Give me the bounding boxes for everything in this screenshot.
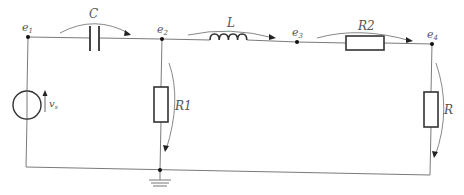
inductor-icon <box>210 34 247 40</box>
wire-e3-r2 <box>297 42 346 43</box>
node-e2-dot <box>160 37 164 41</box>
capacitor-icon <box>90 26 99 51</box>
wire-r1-ground <box>160 122 161 170</box>
r1-arrowhead <box>163 145 169 152</box>
ground-icon <box>149 180 171 186</box>
wires <box>26 37 432 180</box>
resistor-r1-icon <box>154 87 168 122</box>
r2-label: R2 <box>357 19 375 33</box>
capacitor-voltage-arrow <box>60 24 130 34</box>
resistor-r2-icon <box>346 36 384 50</box>
r-label: R <box>443 103 453 117</box>
wire-e1-c <box>28 37 90 38</box>
wire-e2-r1 <box>161 39 162 87</box>
wire-c-e2 <box>99 38 162 39</box>
capacitor-label: C <box>89 7 98 21</box>
wire-e1-source <box>27 37 28 91</box>
wire-e4-r <box>431 44 432 92</box>
source-arrowhead <box>43 90 48 96</box>
capacitor-arrowhead <box>124 30 131 36</box>
wire-l-e3 <box>247 40 297 42</box>
inductor-label: L <box>226 16 235 30</box>
inductor-arrowhead <box>269 34 276 40</box>
node-e4-dot <box>430 42 434 46</box>
node-e3-dot <box>295 40 299 44</box>
node-e3-label: e3 <box>292 26 304 40</box>
node-e2-label: e2 <box>157 23 169 37</box>
r-arrowhead <box>432 151 438 158</box>
node-e1-dot <box>26 35 30 39</box>
node-dots <box>26 35 434 172</box>
r2-arrowhead <box>406 37 413 43</box>
wire-bottom <box>26 167 430 175</box>
node-e1-label: e1 <box>22 21 33 35</box>
wire-source-bottom <box>26 119 27 167</box>
node-e4-label: e4 <box>427 28 438 42</box>
wire-e2-l <box>162 39 210 40</box>
circuit-diagram: e1 e2 e3 e4 C L R2 R1 R vs <box>0 0 464 195</box>
wire-r-bottom <box>430 127 431 175</box>
r1-label: R1 <box>174 99 192 113</box>
resistor-r-icon <box>424 92 438 127</box>
wire-r2-e4 <box>384 43 432 44</box>
node-ground-dot <box>158 168 162 172</box>
source-label: vs <box>49 98 58 110</box>
